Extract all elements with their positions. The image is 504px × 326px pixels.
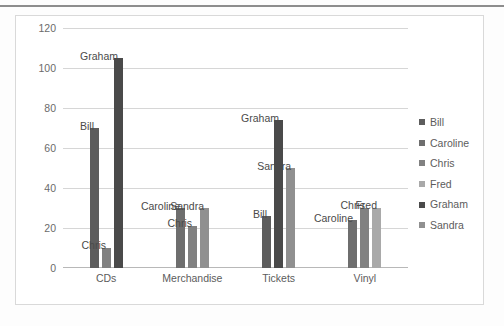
legend-label: Sandra — [430, 220, 464, 231]
bar-merchandise-sandra[interactable]: Sandra — [200, 208, 209, 268]
legend-swatch-icon — [419, 119, 425, 125]
y-axis-tick-label: 80 — [24, 103, 56, 114]
legend-label: Graham — [430, 199, 468, 210]
bar-label-vinyl-caroline: Caroline — [314, 213, 353, 224]
legend-label: Fred — [430, 179, 452, 190]
legend-item-chris[interactable]: Chris — [419, 153, 489, 174]
bar-group-tickets: BillGrahamSandra — [262, 28, 295, 268]
bar-group-cds: BillChrisGraham — [90, 28, 123, 268]
y-axis: 020406080100120 — [20, 28, 56, 268]
y-axis-tick-label: 0 — [24, 263, 56, 274]
y-axis-tick-label: 120 — [24, 23, 56, 34]
bar-label-cds-chris: Chris — [82, 241, 107, 252]
bar-label-vinyl-fred: Fred — [355, 201, 377, 212]
y-axis-tick-label: 100 — [24, 63, 56, 74]
bar-tickets-sandra[interactable]: Sandra — [286, 168, 295, 268]
bar-group-vinyl: CarolineChrisFred — [348, 28, 381, 268]
bar-cds-chris[interactable]: Chris — [102, 248, 111, 268]
plot-area: BillChrisGrahamCarolineChrisSandraBillGr… — [63, 28, 408, 268]
legend-swatch-icon — [419, 202, 425, 208]
bar-tickets-bill[interactable]: Bill — [262, 216, 271, 268]
bar-label-cds-bill: Bill — [80, 121, 94, 132]
bar-vinyl-chris[interactable]: Chris — [360, 208, 369, 268]
x-axis-category-labels: CDsMerchandiseTicketsVinyl — [63, 272, 408, 292]
bar-label-tickets-graham: Graham — [241, 113, 279, 124]
category-label-merchandise: Merchandise — [162, 272, 222, 284]
bar-label-tickets-sandra: Sandra — [257, 161, 291, 172]
chart-screenshot: 020406080100120 BillChrisGrahamCarolineC… — [0, 0, 504, 326]
legend-item-fred[interactable]: Fred — [419, 174, 489, 195]
legend-item-sandra[interactable]: Sandra — [419, 215, 489, 236]
legend-label: Chris — [430, 158, 455, 169]
legend-item-graham[interactable]: Graham — [419, 194, 489, 215]
legend-swatch-icon — [419, 140, 425, 146]
bar-vinyl-fred[interactable]: Fred — [372, 208, 381, 268]
bar-label-tickets-bill: Bill — [253, 209, 267, 220]
legend-item-caroline[interactable]: Caroline — [419, 133, 489, 154]
legend-swatch-icon — [419, 181, 425, 187]
bar-label-merchandise-chris: Chris — [168, 219, 193, 230]
legend-label: Bill — [430, 117, 444, 128]
chart-frame: 020406080100120 BillChrisGrahamCarolineC… — [15, 15, 484, 305]
y-axis-tick-label: 60 — [24, 143, 56, 154]
y-axis-tick-label: 40 — [24, 183, 56, 194]
category-label-tickets: Tickets — [262, 272, 295, 284]
category-label-vinyl: Vinyl — [354, 272, 377, 284]
bar-vinyl-caroline[interactable]: Caroline — [348, 220, 357, 268]
y-axis-tick-label: 20 — [24, 223, 56, 234]
bar-cds-graham[interactable]: Graham — [114, 58, 123, 268]
bar-tickets-graham[interactable]: Graham — [274, 120, 283, 268]
legend-label: Caroline — [430, 138, 469, 149]
legend-swatch-icon — [419, 222, 425, 228]
bar-label-merchandise-sandra: Sandra — [171, 201, 205, 212]
bar-merchandise-chris[interactable]: Chris — [188, 226, 197, 268]
legend: BillCarolineChrisFredGrahamSandra — [419, 112, 489, 236]
legend-item-bill[interactable]: Bill — [419, 112, 489, 133]
bar-label-cds-graham: Graham — [80, 51, 118, 62]
bar-group-merchandise: CarolineChrisSandra — [176, 28, 209, 268]
legend-swatch-icon — [419, 160, 425, 166]
top-divider-rule — [0, 5, 504, 7]
category-label-cds: CDs — [96, 272, 116, 284]
